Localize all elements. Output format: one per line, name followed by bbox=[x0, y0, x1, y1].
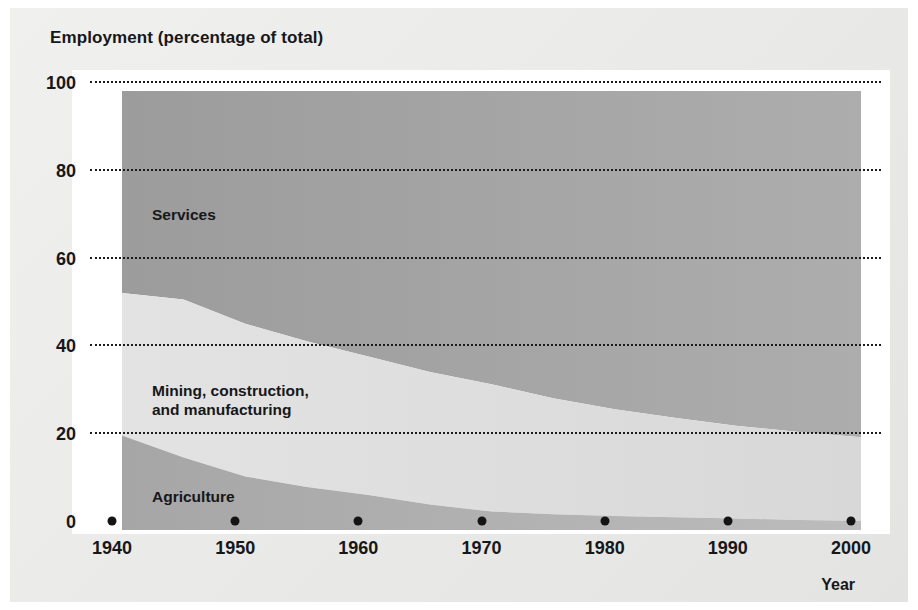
chart-figure: Employment (percentage of total) bbox=[0, 0, 918, 610]
gridline-80 bbox=[90, 169, 881, 171]
x-axis-title: Year bbox=[821, 576, 855, 594]
y-tick-label-0: 0 bbox=[10, 512, 76, 533]
x-tick-label-1940: 1940 bbox=[92, 538, 132, 559]
y-tick-label-60: 60 bbox=[10, 248, 76, 269]
figure-panel: Employment (percentage of total) bbox=[10, 8, 908, 602]
x-tick-dot-1990 bbox=[723, 517, 732, 526]
x-tick-dot-1950 bbox=[231, 517, 240, 526]
x-tick-dot-1980 bbox=[600, 517, 609, 526]
x-tick-label-2000: 2000 bbox=[831, 538, 871, 559]
gridline-40 bbox=[90, 344, 881, 346]
x-tick-label-1950: 1950 bbox=[215, 538, 255, 559]
x-tick-label-1990: 1990 bbox=[708, 538, 748, 559]
x-tick-label-1980: 1980 bbox=[585, 538, 625, 559]
x-tick-dot-2000 bbox=[847, 517, 856, 526]
x-tick-dot-1940 bbox=[108, 517, 117, 526]
gridline-100 bbox=[90, 81, 881, 83]
band-label-services: Services bbox=[152, 206, 216, 225]
x-tick-dot-1970 bbox=[477, 517, 486, 526]
y-tick-label-100: 100 bbox=[10, 73, 76, 94]
y-tick-label-80: 80 bbox=[10, 160, 76, 181]
stacked-area-bands bbox=[122, 91, 861, 530]
gridline-60 bbox=[90, 257, 881, 259]
gridline-20 bbox=[90, 432, 881, 434]
band-label-mining: Mining, construction, and manufacturing bbox=[152, 382, 309, 420]
x-tick-label-1960: 1960 bbox=[338, 538, 378, 559]
x-tick-dot-1960 bbox=[354, 517, 363, 526]
chart-title: Employment (percentage of total) bbox=[50, 28, 323, 48]
y-tick-label-20: 20 bbox=[10, 424, 76, 445]
band-label-agriculture: Agriculture bbox=[152, 488, 235, 507]
plot-area bbox=[122, 91, 861, 530]
y-tick-label-40: 40 bbox=[10, 336, 76, 357]
x-tick-label-1970: 1970 bbox=[461, 538, 501, 559]
